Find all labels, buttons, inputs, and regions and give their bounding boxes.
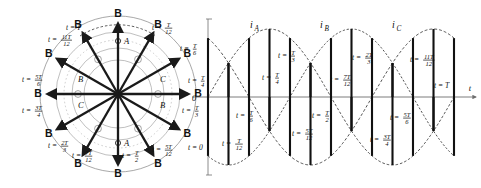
svg-text:t =: t = [152, 23, 161, 32]
svg-text:t =: t = [72, 151, 81, 160]
flux-symbol-B-0: B [114, 7, 122, 19]
svg-text:t =: t = [390, 113, 399, 122]
flux-symbol-B-8: B [45, 127, 53, 139]
svg-text:t =: t = [262, 73, 271, 82]
flux-symbol-B-9: B [34, 87, 42, 99]
chart-time-label-3: t = T4 [262, 71, 280, 85]
svg-text:t =: t = [370, 135, 379, 144]
svg-text:3: 3 [290, 56, 295, 63]
svg-text:C: C [160, 74, 166, 84]
flux-vectors: BBBBBBBBBBBB [34, 7, 202, 179]
svg-text:B: B [78, 74, 83, 84]
svg-text:t =: t = [292, 129, 301, 138]
svg-text:t =: t = [22, 75, 31, 84]
svg-text:t =: t = [312, 111, 321, 120]
stator-slot-label-b-2: B [78, 74, 83, 84]
stator-slot-label-c-4: C [160, 74, 166, 84]
axis-x-label: t [469, 83, 472, 93]
svg-text:C: C [78, 100, 84, 110]
svg-text:i: i [392, 19, 395, 30]
three-phase-current-chart: 0tiAiBiCt = 0t = T12t = T6t = T4t = T3t … [186, 0, 481, 188]
chart-time-label-12: t = T [434, 81, 450, 90]
svg-text:12: 12 [165, 150, 172, 157]
svg-text:6: 6 [405, 118, 409, 125]
series-label-iC: iC [392, 19, 402, 33]
svg-text:t =: t = [48, 141, 57, 150]
svg-text:3: 3 [62, 146, 66, 153]
chart-time-label-1: t = T12 [222, 137, 243, 151]
svg-text:B: B [160, 100, 165, 110]
svg-text:t =: t = [122, 151, 131, 160]
flux-symbol-B-10: B [45, 47, 53, 59]
svg-text:t =: t = [222, 139, 231, 148]
svg-text:2: 2 [325, 116, 329, 123]
chart-time-label-9: t = 3T4 [370, 133, 392, 147]
figure-root: AABBCCBBBBBBBBBBBBt = Tt = T12t = T6t = … [0, 0, 481, 188]
chart-time-label-2: t = T6 [236, 109, 254, 123]
svg-text:12: 12 [306, 134, 313, 141]
svg-text:t =: t = [22, 106, 31, 115]
svg-text:12: 12 [236, 144, 243, 151]
svg-text:12: 12 [344, 80, 351, 87]
svg-text:12: 12 [426, 60, 433, 67]
svg-text:12: 12 [165, 28, 172, 35]
svg-text:i: i [250, 19, 253, 30]
svg-text:t =: t = [330, 75, 339, 84]
svg-text:A: A [254, 25, 260, 33]
vector-time-label-9: t = 3T4 [22, 104, 42, 118]
svg-text:6: 6 [249, 116, 253, 123]
vector-time-label-6: t = T2 [122, 149, 139, 163]
svg-text:t =: t = [152, 145, 161, 154]
svg-text:C: C [397, 25, 402, 33]
vector-time-label-11: t = 11T12 [48, 33, 72, 47]
vector-time-label-8: t = 2T3 [48, 139, 68, 153]
vector-time-label-0: t = T [66, 23, 82, 32]
svg-text:12: 12 [63, 40, 70, 47]
chart-time-label-8: t = 2T3 [352, 51, 374, 65]
svg-text:A: A [123, 138, 130, 148]
chart-time-label-6: t = T2 [312, 109, 330, 123]
chart-time-label-0: t = 0 [188, 143, 203, 152]
svg-text:t =: t = [410, 55, 419, 64]
vector-time-label-5: t = 5T12 [152, 143, 173, 157]
svg-text:4: 4 [385, 140, 389, 147]
stator-slot-label-b-3: B [160, 100, 165, 110]
series-label-iA: iA [250, 19, 260, 33]
flux-symbol-B-5: B [154, 157, 162, 169]
svg-text:4: 4 [37, 111, 41, 118]
svg-text:t =: t = [278, 51, 287, 60]
stator-slot-label-c-5: C [78, 100, 84, 110]
svg-text:B: B [325, 25, 330, 33]
chart-time-label-4: t = T3 [278, 49, 296, 63]
vector-time-label-10: t = 5T6 [22, 73, 42, 87]
series-label-iB: iB [320, 19, 330, 33]
svg-text:2: 2 [135, 156, 139, 163]
chart-time-label-7: t = 7T12 [330, 73, 352, 87]
svg-text:t =: t = [236, 111, 245, 120]
svg-text:4: 4 [275, 78, 279, 85]
svg-text:A: A [123, 36, 130, 46]
svg-text:i: i [320, 19, 323, 30]
svg-text:12: 12 [85, 156, 92, 163]
axis-origin-label: 0 [192, 93, 197, 103]
vector-time-label-1: t = T12 [152, 21, 173, 35]
svg-text:3: 3 [366, 58, 371, 65]
flux-symbol-B-6: B [114, 167, 122, 179]
svg-text:t =: t = [48, 35, 57, 44]
chart-time-label-5: t = 5T12 [292, 127, 314, 141]
svg-text:t =: t = [352, 53, 361, 62]
